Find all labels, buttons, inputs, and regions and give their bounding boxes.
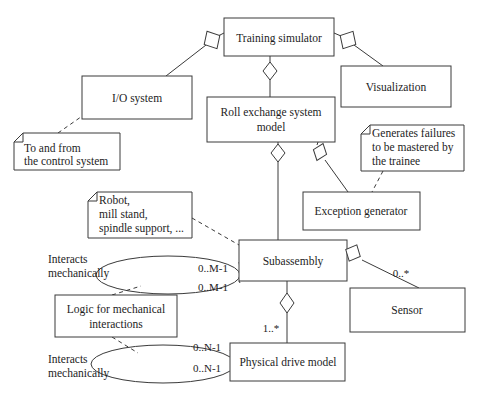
class-label-exception-generator: Exception generator xyxy=(315,205,408,218)
note-generates-failures[interactable]: Generates failures to be mastered by the… xyxy=(361,125,464,171)
edge-ts-vis xyxy=(354,45,383,66)
class-training-simulator[interactable]: Training simulator xyxy=(224,18,334,56)
aggregation-diamond-icon-subassembly-drive xyxy=(280,293,294,313)
class-visualization[interactable]: Visualization xyxy=(341,66,451,107)
class-label-training-simulator: Training simulator xyxy=(236,32,322,45)
aggregation-diamond-icon-roll-exception xyxy=(310,141,329,163)
note-line-1: Robot, xyxy=(99,194,130,207)
class-label-logic-line2: interactions xyxy=(89,318,143,330)
note-line-2: mill stand, xyxy=(99,208,148,221)
multiplicity-zero-star: 0..* xyxy=(393,267,410,279)
note-line-3: the trainee xyxy=(372,155,420,167)
multiplicity-lower-n1-top: 0..N-1 xyxy=(193,341,221,353)
edge-roll-exc-lower xyxy=(325,160,348,192)
class-subassembly[interactable]: Subassembly xyxy=(239,240,347,281)
multiplicity-upper-m1-top: 0..M-1 xyxy=(198,262,228,274)
aggregation-diamond-icon-ts-roll xyxy=(263,62,277,80)
dashed-note-robot-to-subassembly xyxy=(192,218,239,245)
note-line-2: the control system xyxy=(24,155,108,168)
aggregation-diamond-icon-ts-io xyxy=(199,27,225,53)
note-line-1: To and from xyxy=(24,142,81,154)
dashed-note-failures-to-exception xyxy=(372,171,383,192)
multiplicity-one-star: 1..* xyxy=(263,322,280,334)
dashed-logic-to-lower-ellipse xyxy=(112,337,138,353)
note-fold-corner-icon xyxy=(14,133,23,142)
uml-diagram-svg: Training simulator I/O system Visualizat… xyxy=(0,0,479,397)
class-label-roll-exchange-line1: Roll exchange system xyxy=(221,106,322,119)
class-label-sensor: Sensor xyxy=(391,304,422,316)
class-label-subassembly: Subassembly xyxy=(263,255,324,268)
class-box-rect xyxy=(55,295,177,337)
class-box-rect xyxy=(207,97,335,142)
class-io-system[interactable]: I/O system xyxy=(82,76,192,119)
class-roll-exchange-system-model[interactable]: Roll exchange system model xyxy=(207,97,335,142)
edge-ts-io xyxy=(166,45,206,76)
note-line-1: Generates failures xyxy=(372,127,456,139)
association-label-lower-line1: Interacts xyxy=(48,353,88,365)
note-fold-corner-icon xyxy=(88,192,97,201)
association-label-upper-line2: mechanically xyxy=(48,267,110,280)
multiplicity-upper-m1-bottom: 0..M-1 xyxy=(198,281,228,293)
aggregation-diamond-icon-roll-subassembly xyxy=(271,144,285,162)
class-logic-for-mechanical-interactions[interactable]: Logic for mechanical interactions xyxy=(55,295,177,337)
class-sensor[interactable]: Sensor xyxy=(350,288,465,332)
class-physical-drive-model[interactable]: Physical drive model xyxy=(230,343,345,381)
aggregation-diamond-icon-ts-visualization xyxy=(335,27,361,53)
class-label-physical-drive-model: Physical drive model xyxy=(239,356,336,369)
class-label-io-system: I/O system xyxy=(112,92,162,105)
multiplicity-lower-n1-bottom: 0..N-1 xyxy=(193,362,221,374)
class-label-logic-line1: Logic for mechanical xyxy=(67,303,165,316)
uml-diagram-canvas: Training simulator I/O system Visualizat… xyxy=(0,0,479,397)
note-robot-mill-stand-spindle[interactable]: Robot, mill stand, spindle support, ... xyxy=(88,192,192,238)
edge-sub-sensor xyxy=(362,260,419,288)
class-label-roll-exchange-line2: model xyxy=(257,121,286,133)
class-exception-generator[interactable]: Exception generator xyxy=(303,192,420,230)
association-label-upper-line1: Interacts xyxy=(48,253,88,265)
note-line-3: spindle support, ... xyxy=(99,222,184,235)
association-label-lower-line2: mechanically xyxy=(48,367,110,380)
class-label-visualization: Visualization xyxy=(366,81,427,93)
note-line-2: to be mastered by xyxy=(372,141,454,154)
note-fold-corner-icon xyxy=(361,125,370,134)
note-to-and-from-control-system[interactable]: To and from the control system xyxy=(14,133,120,170)
